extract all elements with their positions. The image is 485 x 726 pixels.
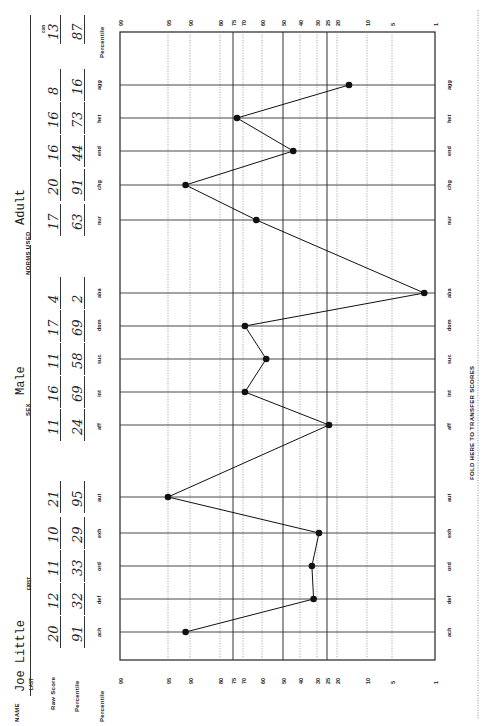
scale-label-top-exh: exh [96,529,102,538]
scale-label-top-het: het [96,115,102,123]
percentile-axis-title-bottom: Percentile [99,690,105,722]
pct-underline-def [84,583,85,615]
raw-score-aff: 11 [46,418,61,435]
fold-instruction: FOLD HERE TO TRANSFER SCORES [469,366,475,480]
percentile-tick-bottom-95: 95 [166,678,172,684]
percentile-tick-top-50: 50 [281,20,287,26]
raw-underline-con [60,15,61,44]
data-point-aba [421,290,428,297]
percentile-score-ord: 33 [70,559,85,576]
name-label: NAME [14,703,20,722]
scale-label-top-suc: suc [96,355,102,364]
percentile-tick-bottom-75: 75 [231,678,237,684]
raw-score-con: 13 [46,23,61,40]
scale-label-top-ord: ord [96,562,102,571]
pct-underline-aba [84,277,85,309]
percentile-score-ach: 91 [70,625,85,642]
data-point-nur [253,217,260,224]
percentile-score-suc: 58 [70,352,85,369]
percentile-tick-top-20: 20 [335,20,341,26]
profile-line [168,85,424,632]
percentile-tick-bottom-40: 40 [298,678,304,684]
percentile-tick-top-30: 30 [315,20,321,26]
raw-underline-end [60,135,61,167]
data-point-aff [326,422,333,429]
scale-label-bottom-aff: aff [446,423,452,430]
raw-score-int: 16 [46,385,61,402]
raw-underline-aba [60,277,61,309]
scale-label-bottom-suc: suc [446,355,452,364]
scale-label-bottom-ach: ach [446,628,452,637]
scale-label-top-aff: aff [96,423,102,430]
raw-score-aut: 21 [46,490,61,507]
percentile-score-int: 69 [70,385,85,402]
percentile-tick-top-40: 40 [298,20,304,26]
raw-score-def: 12 [46,592,61,609]
raw-underline-agg [60,69,61,101]
data-point-aut [165,494,172,501]
percentile-tick-bottom-1: 1 [433,681,439,684]
percentile-score-aff: 24 [70,418,85,435]
percentile-tick-top-95: 95 [166,20,172,26]
raw-score-ord: 11 [46,559,61,576]
percentile-tick-bottom-30: 30 [315,678,321,684]
raw-score-agg: 8 [46,87,61,95]
percentile-tick-bottom-10: 10 [365,678,371,684]
scale-label-bottom-def: def [446,596,452,604]
scale-label-bottom-het: het [446,115,452,123]
percentile-tick-bottom-80: 80 [218,678,224,684]
pct-underline-ach [84,616,85,648]
sex-value: Male [14,366,28,395]
norms-value: Adult [14,189,28,225]
raw-score-chg: 20 [46,178,61,195]
percentile-tick-top-60: 60 [260,20,266,26]
scale-label-bottom-dom: dom [446,319,452,331]
scale-label-top-end: end [96,146,102,156]
raw-underline-def [60,583,61,615]
pct-underline-end [84,135,85,167]
scale-label-top-chg: chg [96,180,102,190]
percentile-tick-top-70: 70 [241,20,247,26]
percentile-score-aba: 2 [70,295,85,303]
percentile-tick-top-25: 25 [325,20,331,26]
raw-score-ach: 20 [46,625,61,642]
percentile-tick-bottom-90: 90 [188,678,194,684]
raw-score-dom: 17 [46,319,61,336]
percentile-score-agg: 16 [70,78,85,95]
scale-label-top-nur: nur [96,216,102,225]
percentile-tick-top-90: 90 [188,20,194,26]
name-value: Joe Little [14,620,28,692]
pct-underline-het [84,102,85,134]
percentile-tick-top-1: 1 [433,23,439,26]
raw-underline-chg [60,169,61,201]
percentile-tick-top-10: 10 [365,20,371,26]
pct-underline-dom [84,310,85,342]
pct-underline-chg [84,169,85,201]
raw-underline-ord [60,550,61,582]
raw-underline-nur [60,204,61,236]
data-point-chg [182,182,189,189]
percentile-tick-bottom-5: 5 [390,681,396,684]
raw-score-label: Raw Score [50,677,56,710]
percentile-tick-top-99: 99 [118,20,124,26]
raw-underline-exh [60,517,61,549]
data-point-suc [263,356,270,363]
scale-label-bottom-ord: ord [446,562,452,571]
data-point-end [290,148,297,155]
scale-label-bottom-end: end [446,146,452,156]
data-point-ord [309,563,316,570]
scale-label-top-ach: ach [96,628,102,637]
pct-underline-nur [84,204,85,236]
raw-underline-int [60,376,61,408]
percentile-score-end: 44 [70,144,85,161]
scale-label-top-aba: aba [96,289,102,298]
scale-label-top-dom: dom [96,319,102,331]
scale-label-top-agg: agg [96,80,102,90]
percentile-score-chg: 91 [70,178,85,195]
pct-underline-ord [84,550,85,582]
raw-underline-ach [60,616,61,648]
pct-underline-int [84,376,85,408]
data-point-dom [242,323,249,330]
pct-underline-con [84,15,85,44]
percentile-tick-top-5: 5 [390,23,396,26]
